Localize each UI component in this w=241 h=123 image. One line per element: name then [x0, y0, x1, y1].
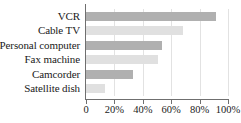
x-axis-tick-label: 20%	[105, 104, 124, 116]
category-label-row: Personal computer	[0, 38, 83, 53]
bar-row	[86, 53, 228, 68]
category-label-camcorder: Camcorder	[32, 69, 80, 80]
x-axis-tick-label: 0	[83, 104, 88, 116]
bar-cable-tv	[86, 26, 183, 35]
bar-personal-computer	[86, 41, 162, 50]
bar-row	[86, 82, 228, 97]
bar-chart: VCR Cable TV Personal computer Fax machi…	[0, 0, 241, 123]
x-axis-tick-label: 60%	[162, 104, 181, 116]
bar-row	[86, 9, 228, 24]
bars-layer	[86, 9, 228, 96]
category-label-row: Cable TV	[0, 24, 83, 39]
bar-row	[86, 24, 228, 39]
category-axis: VCR Cable TV Personal computer Fax machi…	[0, 9, 83, 96]
bar-fax-machine	[86, 55, 158, 64]
bar-camcorder	[86, 70, 133, 79]
category-label-row: Satellite dish	[0, 82, 83, 97]
x-axis-tick-label: 40%	[133, 104, 152, 116]
bar-row	[86, 38, 228, 53]
category-label-vcr: VCR	[58, 11, 80, 22]
category-label-row: VCR	[0, 9, 83, 24]
x-axis-tick-labels: 020%40%60%80%100%	[86, 104, 228, 120]
plot-area	[86, 9, 228, 96]
category-label-cable-tv: Cable TV	[38, 25, 80, 36]
category-label-fax-machine: Fax machine	[25, 54, 80, 65]
category-label-row: Fax machine	[0, 53, 83, 68]
x-axis-tick-label: 100%	[216, 104, 241, 116]
bar-row	[86, 67, 228, 82]
category-label-row: Camcorder	[0, 67, 83, 82]
bar-satellite-dish	[86, 84, 105, 93]
gridline	[228, 9, 229, 96]
category-label-satellite-dish: Satellite dish	[24, 83, 80, 94]
bar-vcr	[86, 12, 216, 21]
category-label-personal-computer: Personal computer	[0, 40, 80, 51]
x-axis-tick-label: 80%	[190, 104, 209, 116]
